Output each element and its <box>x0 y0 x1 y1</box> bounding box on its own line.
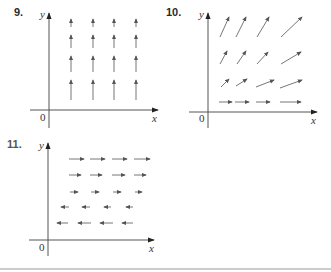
vector-arrow-icon <box>220 51 227 64</box>
vector-arrows <box>71 19 136 100</box>
problem-11-plot: 11. y x 0 <box>7 138 154 256</box>
vector-arrow-icon <box>256 80 274 87</box>
y-axis-label: y <box>38 139 44 151</box>
y-axis-label: y <box>39 8 45 20</box>
y-axis-label: y <box>198 8 204 20</box>
x-axis-label: x <box>310 114 316 126</box>
vector-arrow-icon <box>280 80 302 88</box>
vector-arrows <box>57 159 150 223</box>
problem-number: 9. <box>14 6 23 18</box>
vector-field-figures: 9. y x 0 10. y x 0 11. y x 0 <box>0 0 331 272</box>
vector-arrow-icon <box>257 17 269 37</box>
problem-9-plot: 9. y x 0 <box>14 6 158 128</box>
vector-arrow-icon <box>236 17 246 37</box>
vector-arrows <box>219 17 302 102</box>
vector-arrow-icon <box>221 79 229 87</box>
problem-10-plot: 10. y x 0 <box>166 6 317 128</box>
vector-arrow-icon <box>281 52 301 64</box>
problem-number: 10. <box>166 6 181 18</box>
vector-arrow-icon <box>237 51 246 64</box>
vector-arrow-icon <box>257 52 268 64</box>
origin-label: 0 <box>39 241 45 253</box>
problem-number: 11. <box>7 138 22 150</box>
vector-arrow-icon <box>281 17 302 37</box>
origin-label: 0 <box>199 112 205 124</box>
x-axis-label: x <box>151 112 157 124</box>
origin-label: 0 <box>40 111 46 123</box>
vector-arrow-icon <box>236 79 247 86</box>
x-axis-label: x <box>148 242 154 254</box>
vector-arrow-icon <box>220 17 229 37</box>
